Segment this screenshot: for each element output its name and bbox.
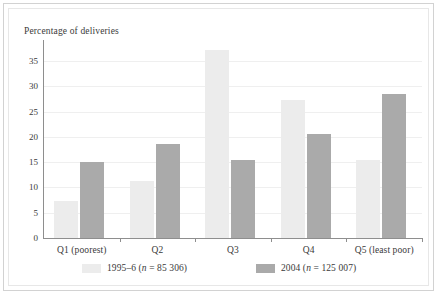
bar-group bbox=[120, 46, 196, 238]
figure-frame: Percentage of deliveries 05101520253035 … bbox=[3, 3, 434, 291]
y-axis-line bbox=[43, 40, 44, 238]
x-axis-line bbox=[43, 238, 423, 239]
x-tick-label: Q2 bbox=[151, 245, 163, 255]
legend-item[interactable]: 2004 (n = 125 007) bbox=[256, 263, 356, 273]
legend-item[interactable]: 1995–6 (n = 85 306) bbox=[82, 263, 187, 273]
y-tick-label: 20 bbox=[29, 132, 38, 142]
bar-group bbox=[44, 46, 120, 238]
legend-label: 2004 (n = 125 007) bbox=[281, 263, 356, 273]
legend-label: 1995–6 (n = 85 306) bbox=[107, 263, 187, 273]
chart-title: Percentage of deliveries bbox=[24, 26, 119, 36]
y-tick-label: 25 bbox=[29, 107, 38, 117]
x-tick-label: Q3 bbox=[227, 245, 239, 255]
plot-area: 05101520253035 Q1 (poorest)Q2Q3Q4Q5 (lea… bbox=[44, 46, 422, 238]
bar[interactable] bbox=[156, 144, 180, 238]
bar[interactable] bbox=[231, 160, 255, 238]
bar[interactable] bbox=[205, 50, 229, 238]
bar[interactable] bbox=[54, 201, 78, 238]
bar-group bbox=[195, 46, 271, 238]
bar-group bbox=[271, 46, 347, 238]
y-tick-label: 35 bbox=[29, 56, 38, 66]
x-tick-label: Q4 bbox=[303, 245, 315, 255]
y-tick-label: 5 bbox=[34, 208, 39, 218]
legend-swatch bbox=[82, 264, 101, 273]
legend-swatch bbox=[256, 264, 275, 273]
bar[interactable] bbox=[307, 134, 331, 238]
chart-legend: 1995–6 (n = 85 306)2004 (n = 125 007) bbox=[44, 263, 422, 279]
y-tick-label: 0 bbox=[34, 233, 39, 243]
y-tick-label: 15 bbox=[29, 157, 38, 167]
bar[interactable] bbox=[80, 162, 104, 238]
bar-group bbox=[346, 46, 422, 238]
bar[interactable] bbox=[356, 160, 380, 238]
y-tick-label: 10 bbox=[29, 182, 38, 192]
x-tick-label: Q1 (poorest) bbox=[57, 245, 106, 255]
bar[interactable] bbox=[130, 181, 154, 238]
x-tick-label: Q5 (least poor) bbox=[355, 245, 414, 255]
bar[interactable] bbox=[382, 94, 406, 239]
y-tick-label: 30 bbox=[29, 81, 38, 91]
bar[interactable] bbox=[281, 100, 305, 238]
